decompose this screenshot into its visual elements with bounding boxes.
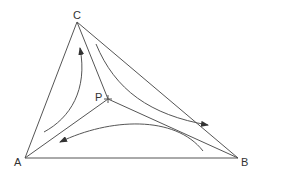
flow-arrow-toward-b (96, 44, 208, 125)
diagram-canvas: C A B P (0, 0, 290, 177)
flow-arrow-toward-c (44, 48, 82, 132)
vertex-label-b: B (241, 156, 248, 168)
vertex-label-a: A (14, 156, 22, 168)
edge-pb (108, 99, 238, 158)
edge-bc (77, 22, 238, 158)
flow-arrow-toward-a (60, 124, 203, 151)
vertex-label-c: C (73, 9, 81, 21)
vertex-label-p: P (95, 91, 102, 103)
